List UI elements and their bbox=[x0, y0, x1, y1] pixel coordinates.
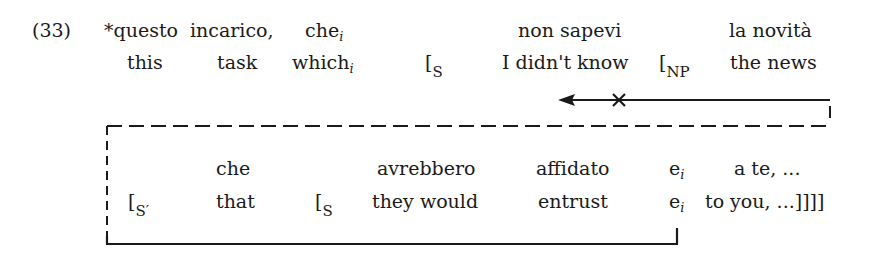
movement-diagram bbox=[0, 0, 881, 255]
solid-path-bottom bbox=[107, 228, 677, 244]
